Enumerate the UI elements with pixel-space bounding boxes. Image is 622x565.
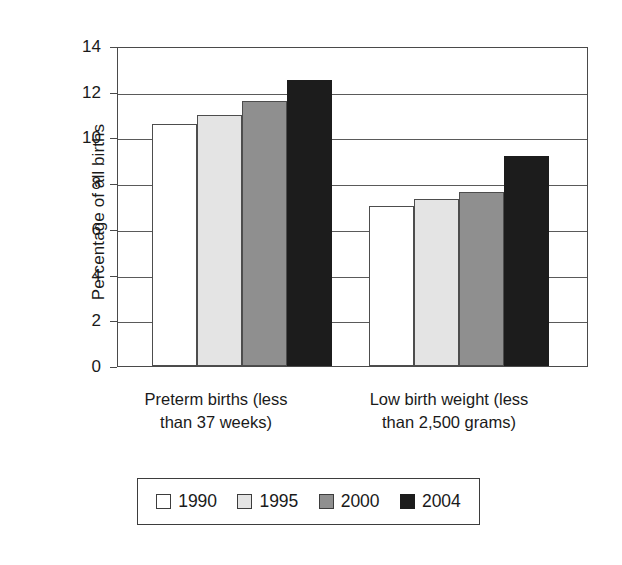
y-axis-tick-mark [110,230,117,231]
y-axis-tick-mark [110,184,117,185]
legend-label: 2004 [422,493,461,511]
y-axis-tick-mark [110,276,117,277]
light-gray-square-swatch [237,494,252,509]
bar [287,80,332,366]
legend-label: 1990 [178,493,217,511]
bar [369,206,414,366]
black-square-swatch [400,494,415,509]
y-axis-tick-mark [110,47,117,48]
bar [459,192,504,366]
y-axis-tick-label: 8 [55,175,101,192]
y-axis-tick-label: 14 [55,38,101,55]
y-axis-tick-mark [110,321,117,322]
bar [242,101,287,366]
bar [504,156,549,366]
legend-entry[interactable]: 1995 [237,493,298,511]
y-axis-tick-label: 2 [55,312,101,329]
x-axis-category-label-line: Preterm births (less [110,388,322,411]
x-axis-category-label-line: than 37 weeks) [110,411,322,434]
y-axis-tick-mark [110,93,117,94]
chart-legend: 1990199520002004 [137,478,480,525]
y-axis-tick-label: 6 [55,221,101,238]
white-square-swatch [156,494,171,509]
bar [197,115,242,366]
x-axis-category-label-line: Low birth weight (less [338,388,560,411]
x-axis-category-label: Preterm births (lessthan 37 weeks) [110,388,322,434]
plot-area [117,47,588,367]
y-axis-tick-label: 12 [55,84,101,101]
bar-chart-figure: Percentage of all births 02468101214 Pre… [0,0,622,565]
y-axis-tick-label: 4 [55,267,101,284]
bar [414,199,459,366]
y-axis-tick-label: 10 [55,129,101,146]
legend-entry[interactable]: 2004 [400,493,461,511]
legend-label: 1995 [259,493,298,511]
medium-gray-square-swatch [319,494,334,509]
x-axis-category-label-line: than 2,500 grams) [338,411,560,434]
legend-entry[interactable]: 2000 [319,493,380,511]
y-axis-tick-mark [110,138,117,139]
legend-label: 2000 [341,493,380,511]
bar [152,124,197,366]
x-axis-category-label: Low birth weight (lessthan 2,500 grams) [338,388,560,434]
y-axis-tick-label: 0 [55,358,101,375]
gridline [118,94,587,95]
legend-entry[interactable]: 1990 [156,493,217,511]
y-axis-tick-mark [110,367,117,368]
